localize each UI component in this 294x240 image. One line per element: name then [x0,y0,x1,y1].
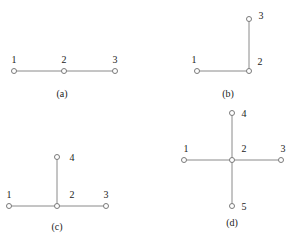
node-2 [55,204,60,209]
node-5 [230,204,235,209]
node-3 [104,204,109,209]
node-label: 2 [70,190,75,200]
node-label: 3 [113,55,118,65]
node-1 [7,204,12,209]
node-label: 1 [12,55,17,65]
caption-c: (c) [51,222,62,232]
node-2 [247,69,252,74]
node-label: 1 [184,144,189,154]
node-label: 2 [62,55,67,65]
node-3 [113,69,118,74]
node-1 [195,69,200,74]
node-label: 2 [242,144,247,154]
node-label: 3 [104,190,109,200]
node-label: 3 [281,144,286,154]
node-label: 1 [7,190,12,200]
graph-c [7,155,109,209]
node-3 [279,158,284,163]
graph-b [195,17,252,74]
graph-a [12,69,118,74]
graph-d [182,111,284,209]
node-1 [182,158,187,163]
node-1 [12,69,17,74]
diagram-canvas: 123(a)123(b)1234(c)12345(d) [0,0,294,240]
node-label: 5 [242,202,247,212]
caption-b: (b) [222,89,234,99]
node-3 [247,17,252,22]
node-label: 4 [242,109,247,119]
caption-d: (d) [226,218,238,228]
node-label: 4 [70,153,75,163]
graphs-svg [0,0,294,240]
node-2 [62,69,67,74]
node-label: 3 [259,11,264,21]
node-4 [230,111,235,116]
caption-a: (a) [56,89,67,99]
node-2 [230,158,235,163]
node-label: 2 [258,57,263,67]
node-4 [55,155,60,160]
node-label: 1 [192,55,197,65]
